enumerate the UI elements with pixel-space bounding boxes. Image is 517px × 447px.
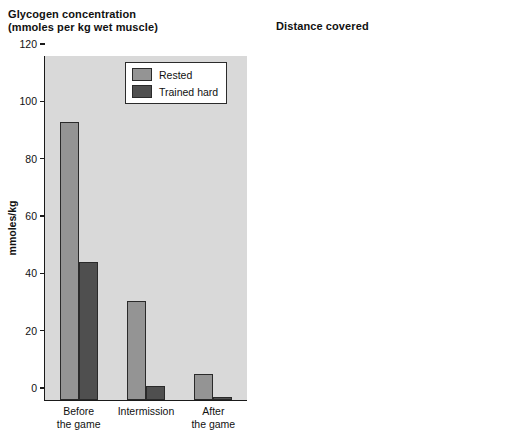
y-axis-tick-mark [40,330,45,332]
plot-area: Before the gameIntermissionAfter the gam… [44,56,247,401]
y-axis-tick: 20 [25,325,45,337]
y-axis-label: mmoles/kg [6,201,18,256]
bar-rested[interactable] [60,122,79,400]
y-axis-tick-label: 120 [19,38,37,50]
y-axis-tick-mark [40,158,45,160]
bar-rested[interactable] [127,301,146,400]
x-axis-tick-labels: Before the gameIntermissionAfter the gam… [45,400,247,431]
bar-trained-hard[interactable] [79,262,98,400]
bar-groups [45,56,247,400]
legend-item-rested: Rested [132,68,218,81]
legend-item-trained-hard: Trained hard [132,85,218,98]
y-axis-tick-mark [40,215,45,217]
y-axis-tick-mark [40,387,45,389]
chart-title: Glycogen concentration (mmoles per kg we… [8,8,238,34]
legend-label-rested: Rested [159,69,192,81]
legend: Rested Trained hard [125,62,227,104]
legend-swatch-rested-icon [132,68,152,81]
y-axis-tick-label: 20 [25,325,37,337]
bar-group [180,56,247,400]
y-axis-tick: 40 [25,267,45,279]
x-axis-tick-label: After the game [180,400,247,431]
y-axis-tick-mark [40,43,45,45]
bar-rested[interactable] [194,374,213,400]
bar-group [45,56,112,400]
y-axis-tick-label: 0 [31,382,37,394]
y-axis-tick: 100 [19,95,45,107]
x-axis-tick-label: Before the game [45,400,112,431]
figure: Glycogen concentration (mmoles per kg we… [0,0,517,447]
y-axis-tick: 80 [25,153,45,165]
y-axis-tick: 0 [31,382,45,394]
y-axis-tick-mark [40,101,45,103]
y-axis-tick: 120 [19,38,45,50]
y-axis-tick-label: 40 [25,267,37,279]
legend-label-trained-hard: Trained hard [159,86,218,98]
y-axis-tick-label: 100 [19,95,37,107]
y-axis-tick: 60 [25,210,45,222]
legend-swatch-trained-hard-icon [132,85,152,98]
y-axis-tick-label: 60 [25,210,37,222]
y-axis-tick-label: 80 [25,153,37,165]
chart-panel-distance-covered: Distance covered km 1st period2nd period… [262,0,517,447]
chart-panel-glycogen-concentration: Glycogen concentration (mmoles per kg we… [0,0,262,447]
x-axis-tick-label: Intermission [112,400,179,431]
bar-trained-hard[interactable] [146,386,165,400]
bar-group [112,56,179,400]
y-axis-tick-mark [40,273,45,275]
chart-title: Distance covered [276,20,506,33]
